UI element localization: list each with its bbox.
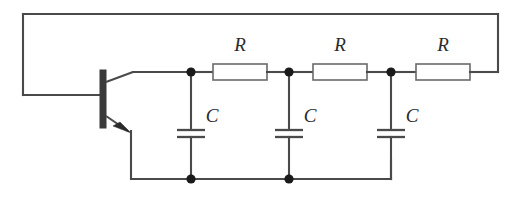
resistor-r1-body: [213, 64, 267, 80]
circuit-diagram: R R R C C C: [0, 0, 516, 199]
node-dot-3: [386, 67, 395, 76]
node-dot-ground-1: [186, 174, 195, 183]
resistor-r1-label: R: [233, 34, 246, 55]
node-dot-ground-2: [284, 174, 293, 183]
resistor-r2-body: [313, 64, 367, 80]
resistor-r2-label: R: [333, 34, 346, 55]
node-dot-2: [284, 67, 293, 76]
transistor-collector-lead: [106, 72, 133, 82]
capacitor-c2-label: C: [304, 105, 317, 126]
capacitor-c1-label: C: [206, 105, 219, 126]
resistor-r3-body: [416, 64, 470, 80]
resistor-r3-label: R: [436, 34, 449, 55]
transistor-base-bar: [100, 70, 106, 128]
capacitor-c3-label: C: [406, 105, 419, 126]
node-dot-1: [186, 67, 195, 76]
